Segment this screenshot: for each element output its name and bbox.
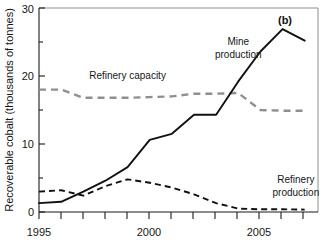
y-tick-label-30: 30 — [22, 3, 34, 15]
x-tick-label-2005: 2005 — [247, 226, 271, 238]
x-tick-label-1995: 1995 — [27, 226, 51, 238]
annotation-mine-production: production — [215, 49, 262, 60]
annotation-mine: Mine — [227, 36, 249, 47]
y-axis-title: Recoverable cobalt (thousands of tonnes) — [3, 8, 15, 212]
y-tick-label-20: 20 — [22, 70, 34, 82]
y-tick-label-0: 0 — [28, 206, 34, 218]
series-line-mine-production — [39, 29, 305, 203]
x-tick-label-2000: 2000 — [137, 226, 161, 238]
x-axis-ticks — [39, 212, 303, 219]
y-tick-label-10: 10 — [22, 138, 34, 150]
annotation-refinery: Refinery — [277, 174, 314, 185]
panel-label: (b) — [278, 14, 292, 26]
chart-figure: 0 10 20 30 Recoverable cobalt (thousands… — [0, 0, 326, 247]
cobalt-line-chart: 0 10 20 30 Recoverable cobalt (thousands… — [0, 0, 326, 247]
annotation-refinery-capacity: Refinery capacity — [89, 70, 166, 81]
y-axis-minor-ticks — [39, 42, 43, 178]
series-line-refinery-capacity — [39, 90, 305, 111]
annotation-refinery-production: production — [273, 187, 320, 198]
